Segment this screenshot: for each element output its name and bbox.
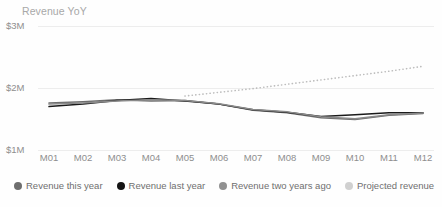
series-line [185, 66, 423, 96]
series-line [49, 100, 423, 119]
legend-item[interactable]: Revenue this year [14, 180, 103, 191]
chart-legend: Revenue this yearRevenue last yearRevenu… [14, 180, 434, 191]
legend-item[interactable]: Projected revenue [345, 180, 434, 191]
x-tick-label: M03 [108, 152, 126, 163]
x-tick-label: M02 [74, 152, 92, 163]
legend-label: Revenue this year [26, 180, 103, 191]
legend-swatch-icon [117, 182, 125, 190]
legend-label: Revenue last year [129, 180, 206, 191]
x-tick-label: M08 [278, 152, 296, 163]
x-tick-label: M04 [142, 152, 160, 163]
legend-item[interactable]: Revenue last year [117, 180, 206, 191]
chart-title: Revenue YoY [22, 5, 87, 17]
x-tick-label: M11 [380, 152, 398, 163]
chart-lines [38, 26, 434, 150]
legend-item[interactable]: Revenue two years ago [219, 180, 331, 191]
x-tick-label: M01 [40, 152, 58, 163]
x-tick-label: M10 [346, 152, 364, 163]
y-tick-label: $2M [6, 82, 24, 93]
legend-label: Projected revenue [357, 180, 434, 191]
y-tick-label: $3M [6, 20, 24, 31]
x-tick-label: M07 [244, 152, 262, 163]
x-axis: M01M02M03M04M05M06M07M08M09M10M11M12 [38, 152, 434, 168]
x-tick-label: M05 [176, 152, 194, 163]
x-tick-label: M12 [414, 152, 432, 163]
x-tick-label: M06 [210, 152, 228, 163]
legend-swatch-icon [345, 182, 353, 190]
legend-label: Revenue two years ago [231, 180, 331, 191]
x-tick-label: M09 [312, 152, 330, 163]
gridline-$1M [38, 150, 434, 151]
legend-swatch-icon [14, 182, 22, 190]
legend-swatch-icon [219, 182, 227, 190]
y-tick-label: $1M [6, 144, 24, 155]
chart-card: Revenue YoY $1M$2M$3M M01M02M03M04M05M06… [0, 0, 442, 207]
